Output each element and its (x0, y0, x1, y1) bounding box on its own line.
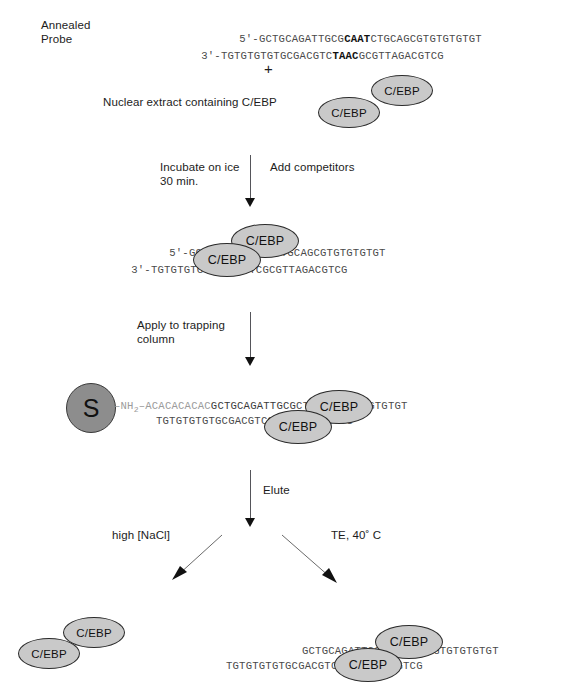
cebp-protein-text: C/EBP (279, 420, 318, 434)
cebp-protein-text: C/EBP (384, 85, 420, 97)
probe-bottom-prime: 3'- (201, 50, 221, 62)
figure-canvas: Annealed Probe 5'-GCTGCAGATTGCGCAATCTGCA… (0, 0, 571, 693)
probe-bottom-core-taac: TAAC (332, 50, 358, 62)
cebp-protein-text: C/EBP (208, 253, 247, 267)
probe-bottom-segment-a: TGTGTGTGTGCGACGTC (221, 50, 332, 62)
cebp-protein-text: C/EBP (31, 648, 67, 660)
branch-left-line (178, 535, 222, 575)
cebp-product-left-lower: C/EBP (18, 638, 80, 669)
elute-label: Elute (263, 483, 290, 497)
cebp-protein-text: C/EBP (246, 234, 285, 248)
branch-left-arrowhead (172, 566, 187, 580)
arrow-shaft-elute (250, 470, 251, 525)
plus-symbol: + (264, 60, 273, 77)
add-competitors-label: Add competitors (270, 160, 355, 174)
column-top-segment-a: GCTGCAGATTGCG (211, 400, 296, 412)
bead-label-text: S (83, 394, 100, 423)
probe-bottom-strand: 3'-TGTGTGTGTGCGACGTCTAACGCGTTAGACGTCG (175, 34, 444, 79)
nuclear-extract-label: Nuclear extract containing C/EBP (103, 95, 277, 109)
branch-right-line (282, 535, 330, 577)
bound-bottom-segment-b: GCGTTAGACGTCG (262, 264, 347, 276)
linker-tail-sequence: ACACACACAC (145, 400, 211, 412)
cebp-product-right-lower: C/EBP (334, 648, 402, 682)
cebp-protein-lower-1: C/EBP (318, 97, 380, 128)
column-bottom-segment-a: TGTGTGTGTGCGACGTC (156, 415, 267, 427)
cebp-protein-text: C/EBP (349, 658, 388, 672)
cebp-protein-text: C/EBP (320, 400, 359, 414)
arrow-head-column (245, 357, 255, 366)
cebp-protein-text: C/EBP (390, 635, 429, 649)
high-nacl-label: high [NaCl] (112, 528, 170, 542)
te-40c-label: TE, 40˚ C (331, 528, 381, 542)
cebp-protein-text: C/EBP (76, 627, 112, 639)
cebp-protein-upper-1: C/EBP (371, 75, 433, 106)
apply-column-label: Apply to trapping column (137, 318, 225, 346)
cebp-protein-bound-lower: C/EBP (193, 243, 261, 277)
probe-bottom-segment-b: GCGTTAGACGTCG (359, 50, 444, 62)
product-bottom-segment-a: TGTGTGTGTGCGACGTC (226, 660, 337, 672)
arrow-head-incubate (245, 198, 255, 207)
incubate-label: Incubate on ice 30 min. (160, 160, 240, 188)
sepharose-bead: S (66, 383, 116, 433)
annealed-probe-label: Annealed Probe (41, 18, 90, 46)
cebp-protein-text: C/EBP (331, 107, 367, 119)
linker-nh2: –NH2–ACACACACAC (114, 400, 211, 412)
branch-right-arrowhead (322, 568, 337, 583)
cebp-protein-column-lower: C/EBP (264, 410, 332, 444)
bound-bottom-prime: 3'- (131, 264, 151, 276)
